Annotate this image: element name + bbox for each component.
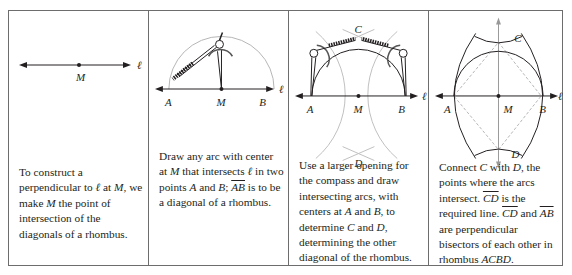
label-a: A (443, 103, 451, 115)
point-m (497, 94, 501, 98)
step-2-panel: A M B ℓ Draw any arc with center at M th… (148, 11, 288, 265)
arrow-right-icon (266, 86, 274, 92)
label-line: ℓ (137, 59, 142, 71)
step-4-panel: C A M B ℓ D Connect C with D, the points… (428, 11, 564, 265)
label-m: M (502, 103, 513, 115)
label-d: D (510, 149, 519, 161)
step-2-diagram: A M B ℓ (149, 11, 288, 171)
step-3-panel: C A M B ℓ D Use a larger opening for the… (288, 11, 428, 265)
label-m: M (353, 103, 364, 115)
label-line: ℓ (422, 90, 427, 102)
step-1-diagram: M ℓ (9, 11, 148, 171)
label-c: C (355, 23, 363, 35)
label-c: C (514, 32, 522, 44)
step-4-diagram: C A M B ℓ D (429, 11, 564, 171)
construction-figure: M ℓ To construct a perpendicular to ℓ at… (8, 10, 563, 266)
arrow-left-icon (19, 62, 27, 68)
label-m: M (75, 71, 86, 83)
label-line: ℓ (558, 90, 563, 102)
compass-left-icon (310, 38, 356, 96)
point-m (357, 94, 361, 98)
label-b: B (259, 96, 266, 108)
arc-from-b (368, 31, 397, 158)
step-3-diagram: C A M B ℓ D (289, 11, 428, 171)
step-1-caption: To construct a perpendicular to ℓ at M, … (19, 165, 144, 242)
label-b: B (539, 103, 546, 115)
label-line: ℓ (279, 83, 284, 95)
arrow-right-icon (410, 93, 418, 99)
step-1-panel: M ℓ To construct a perpendicular to ℓ at… (9, 11, 148, 265)
step-3-caption: Use a larger opening for the compass and… (299, 158, 424, 266)
step-2-caption: Draw any arc with center at M that inter… (159, 149, 284, 211)
arrow-left-icon (295, 93, 303, 99)
label-b: B (398, 103, 405, 115)
point-m (77, 63, 81, 67)
label-m: M (216, 96, 227, 108)
arrow-right-icon (123, 62, 131, 68)
step-4-caption: Connect C with D, the points where the a… (439, 160, 560, 268)
arrow-left-icon (155, 86, 163, 92)
arc-from-a (316, 31, 345, 158)
arrow-right-icon (550, 93, 558, 99)
arc-ab (312, 49, 405, 96)
label-a: A (164, 96, 172, 108)
label-a: A (306, 103, 314, 115)
arrow-up-icon (496, 18, 501, 25)
arrow-left-icon (435, 93, 443, 99)
